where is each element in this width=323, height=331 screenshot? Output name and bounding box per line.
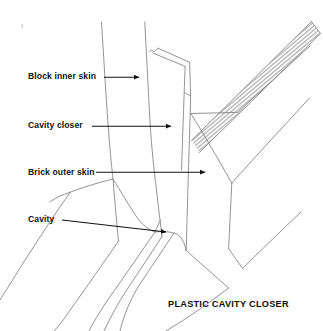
block-inner-skin-edge-right xyxy=(145,22,157,190)
callout-label-brick-outer-skin: Brick outer skin xyxy=(28,168,95,177)
hatched-band-fill xyxy=(192,22,321,153)
lower-return-inner xyxy=(229,249,243,269)
wall-course-top-diagonal xyxy=(0,192,71,300)
brick-outer-skin-right-diagonal xyxy=(232,98,310,183)
block-inner-skin-edge-left-lower xyxy=(113,179,119,241)
figure-canvas: Block inner skin Cavity closer Brick out… xyxy=(0,0,323,331)
cavity-closer-right-edge-lower xyxy=(186,96,190,251)
wall-course-fifth xyxy=(120,233,174,331)
callout-label-block-inner-skin: Block inner skin xyxy=(28,72,96,81)
block-inner-skin-edge-right-lower xyxy=(157,190,163,237)
wall-course-top xyxy=(50,179,113,202)
wall-course-fourth xyxy=(104,237,162,331)
cavity-closer-inner-face-seam xyxy=(182,93,185,170)
wall-course-second-lower xyxy=(54,241,119,331)
block-inner-skin-edge-left xyxy=(102,22,114,179)
figure-caption: PLASTIC CAVITY CLOSER xyxy=(168,300,289,309)
cavity-closer-right-edge-upper xyxy=(190,62,191,96)
lower-return-bottom-edge xyxy=(166,288,229,331)
wall-course-cavity-seam xyxy=(155,231,186,250)
callout-label-cavity-closer: Cavity closer xyxy=(28,121,83,130)
wall-course-third xyxy=(89,232,155,331)
paper-speck xyxy=(21,24,23,28)
lower-return-left xyxy=(186,251,228,289)
brick-outer-skin-corner-vertical xyxy=(229,183,232,249)
wall-course-second xyxy=(113,179,155,232)
hatched-band-outline-lower xyxy=(200,34,321,153)
hatched-band-outline-upper xyxy=(192,22,312,141)
wall-course-cavity-notch xyxy=(155,220,161,232)
cavity-closer-line-drawing xyxy=(0,0,323,331)
cavity-closer-top-notch xyxy=(152,48,158,52)
cavity-closer-top-face-inner xyxy=(153,53,185,66)
callout-label-cavity: Cavity xyxy=(28,215,54,224)
brick-outer-skin-upper-right xyxy=(238,46,310,112)
cavity-closer-top-face xyxy=(158,48,190,62)
arrow-cavity xyxy=(62,220,166,232)
lower-return-right xyxy=(243,212,301,269)
